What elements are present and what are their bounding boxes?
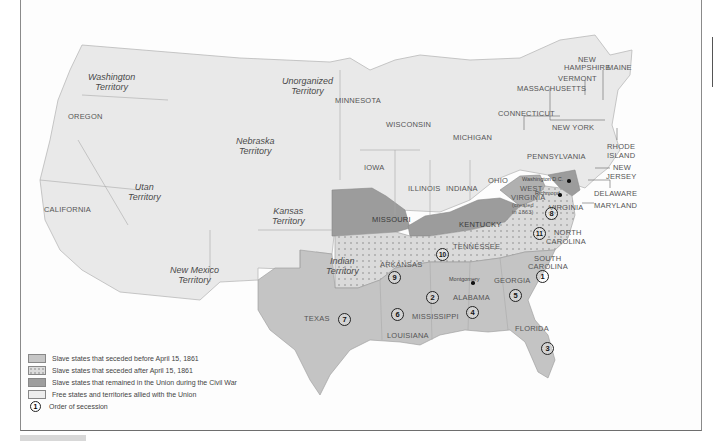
state-label-missouri: MISSOURI	[372, 215, 411, 224]
territory-label: New MexicoTerritory	[170, 265, 219, 285]
territory-label: UnorganizedTerritory	[282, 76, 333, 96]
state-label-mississippi: MISSISSIPPI	[412, 312, 459, 321]
secession-marker-2: 2	[426, 291, 439, 304]
state-label-new-york: NEW YORK	[552, 123, 594, 132]
state-label-louisiana: LOUISIANA	[387, 331, 429, 340]
secession-marker-4: 4	[466, 306, 479, 319]
legend-swatch-free-states	[28, 390, 46, 399]
legend-label: Free states and territories allied with …	[52, 391, 196, 398]
state-label-illinois: ILLINOIS	[408, 184, 440, 193]
legend-item-free-states: Free states and territories allied with …	[28, 388, 237, 400]
legend-swatch-seceded-before	[28, 354, 46, 363]
secession-marker-6: 6	[391, 308, 404, 321]
legend-label: Slave states that seceded after April 15…	[52, 367, 193, 374]
capital-dot-icon	[567, 179, 571, 183]
state-label-ohio: OHIO	[488, 176, 508, 185]
legend-label: Order of secession	[49, 403, 108, 410]
state-label-alabama: ALABAMA	[453, 293, 490, 302]
state-label-iowa: IOWA	[364, 163, 385, 172]
state-label-maine: MAINE	[607, 63, 632, 72]
state-label-vermont: VERMONT	[558, 74, 597, 83]
state-label-rhode-island: RHODE	[607, 142, 635, 151]
legend-label: Slave states that remained in the Union …	[52, 379, 237, 386]
caption-placeholder-bar	[20, 435, 86, 441]
state-label-maryland: MARYLAND	[594, 201, 637, 210]
state-label-north-carolina: NORTH	[554, 228, 582, 237]
secession-marker-10: 10	[436, 248, 449, 261]
state-label-arkansas: ARKANSAS	[380, 260, 422, 269]
territory-label: WashingtonTerritory	[88, 72, 135, 92]
state-label-new-hampshire: HAMPSHIRE	[564, 63, 610, 72]
capital-dot-icon	[558, 193, 562, 197]
state-label-kentucky: KENTUCKY	[459, 220, 501, 229]
state-label-tennessee: TENNESSEE	[453, 242, 500, 251]
map-legend: Slave states that seceded before April 1…	[28, 352, 237, 412]
state-label-massachusetts: MASSACHUSETTS	[517, 84, 586, 93]
secession-marker-8: 8	[545, 207, 558, 220]
state-label-north-carolina: CAROLINA	[546, 237, 586, 246]
seceded-before-region	[258, 250, 555, 395]
legend-item-border-states: Slave states that remained in the Union …	[28, 376, 237, 388]
city-label-richmond: Richmond	[535, 190, 560, 196]
secession-marker-1: 1	[536, 270, 549, 283]
territory-label: KansasTerritory	[272, 206, 305, 226]
state-label-texas: TEXAS	[304, 314, 330, 323]
state-label-wisconsin: WISCONSIN	[386, 120, 431, 129]
secession-marker-11: 11	[533, 227, 546, 240]
state-label-new-jersey: NEW	[613, 163, 631, 172]
capital-dot-icon	[471, 281, 475, 285]
state-label-south-carolina: CAROLINA	[528, 262, 568, 271]
state-label-michigan: MICHIGAN	[453, 133, 492, 142]
secession-marker-3: 3	[541, 342, 554, 355]
state-label-minnesota: MINNESOTA	[335, 96, 381, 105]
legend-item-seceded-after: Slave states that seceded after April 15…	[28, 364, 237, 376]
secession-marker-7: 7	[338, 313, 351, 326]
state-label-georgia: GEORGIA	[494, 276, 530, 285]
state-label-florida: FLORIDA	[515, 324, 549, 333]
state-label-rhode-island: ISLAND	[607, 151, 635, 160]
state-label-indiana: INDIANA	[446, 184, 478, 193]
state-label-oregon: OREGON	[68, 112, 103, 121]
legend-item-seceded-before: Slave states that seceded before April 1…	[28, 352, 237, 364]
state-label-pennsylvania: PENNSYLVANIA	[527, 152, 586, 161]
territory-label: IndianTerritory	[326, 256, 359, 276]
state-label-connecticut: CONNECTICUT	[498, 109, 555, 118]
state-label-delaware: DELAWARE	[594, 189, 637, 198]
state-label-new-jersey: JERSEY	[606, 172, 636, 181]
state-label-california: CALIFORNIA	[44, 205, 91, 214]
legend-label: Slave states that seceded before April 1…	[52, 355, 199, 362]
territory-label: UtanTerritory	[128, 182, 161, 202]
city-label-montgomery: Montgomery	[449, 276, 480, 282]
legend-swatch-border-states	[28, 378, 46, 387]
legend-swatch-seceded-after	[28, 366, 46, 375]
state-label-west-virginia-note: in 1863)	[512, 208, 533, 217]
territory-label: NebraskaTerritory	[236, 136, 275, 156]
secession-marker-9: 9	[388, 271, 401, 284]
secession-marker-5: 5	[509, 289, 522, 302]
order-circle-icon: 1	[30, 401, 41, 412]
city-label-washington-dc: Washington D.C.	[522, 176, 563, 182]
legend-item-order: 1 Order of secession	[28, 400, 237, 412]
